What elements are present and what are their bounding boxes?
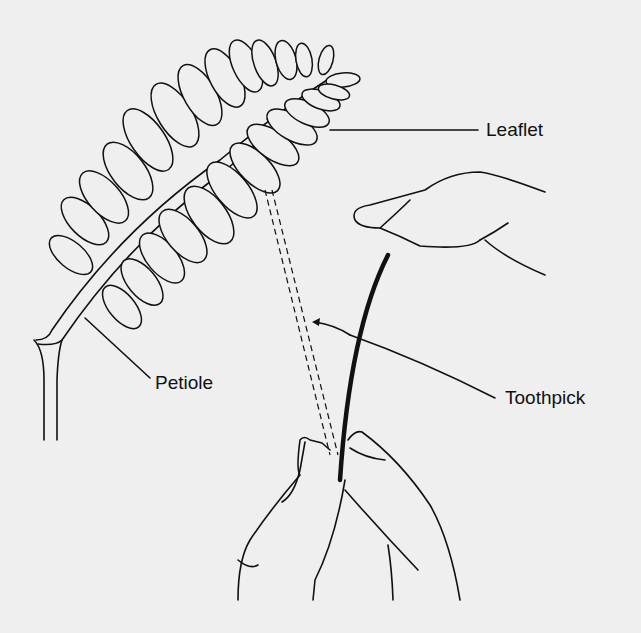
label-petiole: Petiole bbox=[155, 372, 213, 394]
toothpick bbox=[340, 255, 388, 480]
label-leaflet: Leaflet bbox=[486, 119, 543, 141]
illustration bbox=[0, 0, 641, 633]
toothpick-original-position bbox=[265, 190, 338, 455]
toothpick-leader bbox=[350, 335, 495, 398]
petiole-leader bbox=[85, 318, 150, 378]
toothpick-arrow-line bbox=[315, 322, 350, 335]
arrow-head-icon bbox=[312, 318, 320, 326]
upper-hand bbox=[354, 172, 545, 275]
lower-hand bbox=[238, 432, 460, 600]
diagram: Leaflet Petiole Toothpick bbox=[0, 0, 641, 633]
label-toothpick: Toothpick bbox=[505, 387, 585, 409]
